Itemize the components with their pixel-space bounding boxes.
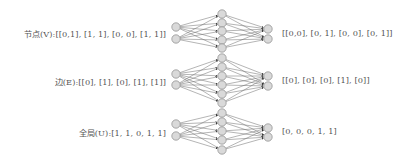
connection-edge: [180, 15, 217, 26]
hidden-node: [218, 44, 226, 52]
connection-edge: [180, 74, 217, 76]
input-node: [172, 35, 180, 43]
output-node: [264, 35, 272, 43]
connection-edge: [180, 114, 217, 123]
hidden-node: [218, 19, 226, 27]
connection-edge: [226, 30, 263, 39]
input-node: [172, 81, 180, 89]
input-node: [172, 120, 180, 128]
connection-edge: [226, 128, 263, 130]
connection-edge: [180, 87, 218, 102]
output-node: [264, 82, 272, 90]
output-node: [264, 25, 272, 33]
connection-edge: [180, 123, 217, 134]
hidden-node: [218, 127, 226, 135]
connection-edge: [180, 23, 217, 26]
neural-network-graphic: [0, 0, 402, 167]
hidden-node: [218, 136, 226, 144]
connection-edge: [180, 115, 218, 134]
connection-edge: [226, 39, 263, 40]
connection-edge: [226, 68, 263, 75]
connection-edge: [226, 130, 264, 148]
hidden-node: [218, 99, 226, 107]
hidden-node: [218, 109, 226, 117]
hidden-node: [218, 81, 226, 89]
input-node: [172, 23, 180, 31]
hidden-node: [218, 54, 226, 62]
hidden-node: [218, 72, 226, 80]
input-node: [172, 70, 180, 78]
hidden-node: [218, 10, 226, 18]
input-node: [172, 132, 180, 140]
hidden-node: [218, 118, 226, 126]
connection-edge: [180, 76, 218, 100]
hidden-node: [218, 146, 226, 154]
hidden-node: [218, 63, 226, 71]
connection-edge: [226, 24, 263, 29]
connection-edge: [226, 40, 263, 47]
output-node: [264, 72, 272, 80]
connection-edge: [180, 39, 217, 40]
connection-edge: [226, 138, 263, 149]
connection-edge: [226, 15, 264, 27]
output-node: [264, 124, 272, 132]
connection-edge: [226, 32, 263, 38]
connection-edge: [180, 122, 217, 124]
connection-edge: [226, 29, 263, 31]
hidden-node: [218, 36, 226, 44]
hidden-node: [218, 90, 226, 98]
output-node: [264, 133, 272, 141]
connection-edge: [180, 27, 217, 30]
connection-edge: [226, 31, 264, 47]
hidden-node: [218, 27, 226, 35]
